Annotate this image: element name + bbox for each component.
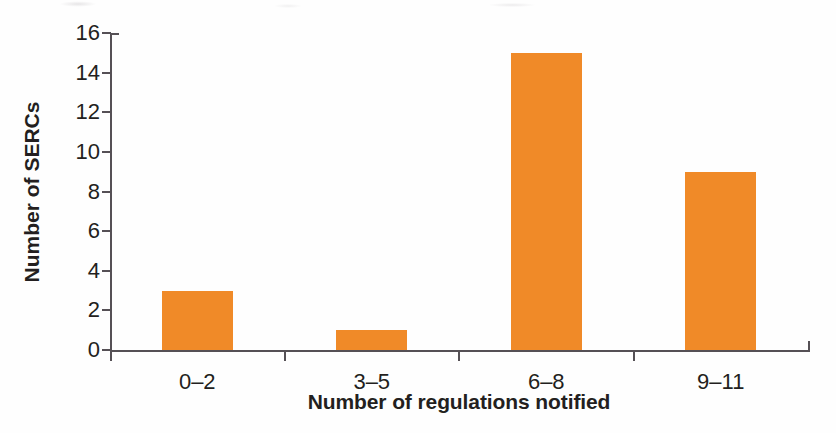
y-axis-tick [102,230,111,232]
bar [336,330,407,350]
y-axis-top-cap [110,33,119,35]
y-axis-tick-label: 8 [88,179,100,205]
y-axis-tick [102,191,111,193]
x-axis-title: Number of regulations notified [110,390,808,414]
y-axis-tick [102,32,111,34]
plot-area: 02468101214160–23–56–89–11 [110,33,808,350]
bar [162,291,233,350]
x-axis-tick [284,350,286,361]
y-axis-tick-label: 16 [76,20,100,46]
x-axis-tick [458,350,460,361]
x-axis-origin-tick [110,350,112,361]
y-axis-title: Number of SERCs [18,33,46,350]
bar [685,172,756,350]
x-axis-right-cap [808,341,810,352]
y-axis-tick-label: 4 [88,258,100,284]
y-axis-tick-label: 6 [88,218,100,244]
y-axis-tick-label: 0 [88,337,100,363]
y-axis-tick-label: 12 [76,99,100,125]
y-axis-tick-label: 2 [88,297,100,323]
y-axis-tick [102,72,111,74]
x-axis-line [110,350,810,352]
bar [511,53,582,350]
y-axis-tick-label: 10 [76,139,100,165]
y-axis-tick [102,111,111,113]
scan-artifact [0,0,836,12]
y-axis-tick [102,309,111,311]
y-axis-tick [102,270,111,272]
y-axis-title-label: Number of SERCs [20,101,44,282]
y-axis-tick [102,151,111,153]
y-axis-tick-label: 14 [76,60,100,86]
x-axis-tick [633,350,635,361]
bar-chart-figure: Number of SERCs 02468101214160–23–56–89–… [0,0,836,433]
